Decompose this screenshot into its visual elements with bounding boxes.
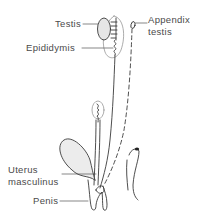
- colon-shape: [129, 149, 139, 200]
- label-testis: Testis: [55, 19, 81, 29]
- label-uterus-masculinus-line2: masculinus: [8, 177, 59, 187]
- epididymis-shape: [114, 40, 116, 55]
- diagram-canvas: Testis Epididymis Appendix testis Uterus…: [0, 0, 208, 216]
- penis-shape: [88, 180, 107, 210]
- label-uterus-masculinus-line1: Uterus: [8, 165, 38, 175]
- label-penis: Penis: [33, 196, 58, 206]
- label-appendix-testis-line2: testis: [148, 27, 172, 37]
- seminal-vesicle-envelope: [92, 101, 104, 119]
- testis-shape: [98, 18, 111, 40]
- label-appendix-testis-line1: Appendix: [148, 15, 190, 25]
- vas-deferens: [100, 55, 115, 188]
- appendix-testis-shape: [130, 21, 136, 29]
- label-epididymis: Epididymis: [26, 43, 75, 53]
- dashed-duct: [104, 29, 132, 185]
- colon-opening: [135, 148, 139, 151]
